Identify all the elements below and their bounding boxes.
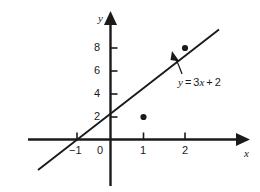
y-tick-label-4: 4 <box>94 88 100 99</box>
x-tick-label-minus-1: −1 <box>69 145 82 156</box>
data-point <box>182 45 188 51</box>
data-point <box>140 114 146 120</box>
y-tick-label-2: 2 <box>94 111 100 122</box>
function-line <box>38 30 219 171</box>
x-axis-label: x <box>244 148 249 159</box>
x-tick-label-0: 0 <box>97 145 103 156</box>
x-tick-label-1: 1 <box>140 145 146 156</box>
equation-annotation: y=3x+2 <box>178 77 221 88</box>
equation-equals: = <box>185 76 191 88</box>
y-axis-arrowhead <box>104 11 117 25</box>
x-tick-label-2: 2 <box>182 145 188 156</box>
graph-figure: 8 6 4 2 −1 0 1 2 y x y=3x+2 <box>0 0 260 192</box>
x-axis-arrowhead <box>236 133 250 146</box>
equation-x-symbol: x <box>199 76 204 88</box>
y-axis-label: y <box>98 13 103 24</box>
y-tick-label-6: 6 <box>94 65 100 76</box>
equation-intercept: 2 <box>215 76 221 88</box>
equation-plus: + <box>206 76 212 88</box>
equation-y-symbol: y <box>178 76 183 88</box>
coordinate-plane <box>0 0 260 192</box>
annotation-arrowhead <box>171 51 180 62</box>
y-tick-label-8: 8 <box>94 42 100 53</box>
